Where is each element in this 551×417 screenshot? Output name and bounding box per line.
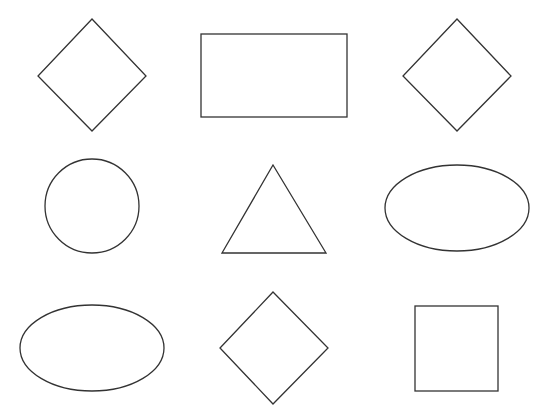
square-shape-r3c3 bbox=[415, 306, 498, 391]
rectangle-shape-r1c2 bbox=[201, 34, 347, 117]
ellipse-shape-r2c3 bbox=[385, 165, 529, 251]
ellipse-shape-r3c1 bbox=[20, 305, 164, 391]
circle-shape-r2c1 bbox=[45, 159, 139, 253]
shapes-canvas bbox=[0, 0, 551, 417]
